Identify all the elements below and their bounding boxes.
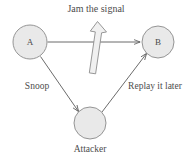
edge-label-replay: Replay it later <box>128 81 183 91</box>
network-attack-diagram: A B Jam the signal Snoop Replay it later… <box>0 0 192 162</box>
node-attacker-circle[interactable] <box>74 107 106 139</box>
diagram-canvas: A B Jam the signal Snoop Replay it later… <box>0 0 192 162</box>
node-attacker[interactable] <box>74 107 106 139</box>
node-attacker-label: Attacker <box>74 144 108 154</box>
node-b-label: B <box>155 37 161 47</box>
jam-block-arrow <box>89 22 106 74</box>
node-a-label: A <box>27 37 34 47</box>
edge-label-snoop: Snoop <box>25 81 50 91</box>
node-a[interactable]: A <box>13 25 47 59</box>
diagram-title: Jam the signal <box>67 3 124 14</box>
node-b[interactable]: B <box>142 26 174 58</box>
